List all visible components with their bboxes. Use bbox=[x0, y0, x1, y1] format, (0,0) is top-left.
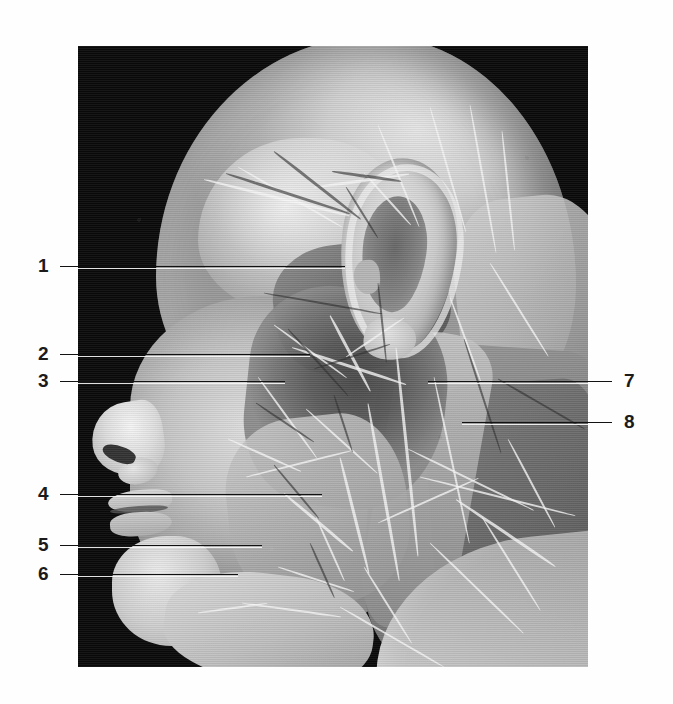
leader-line-7 bbox=[428, 381, 588, 382]
leader-line-3 bbox=[60, 381, 78, 382]
leader-line-4 bbox=[78, 494, 322, 495]
leader-line-2 bbox=[78, 354, 310, 355]
leader-line-1 bbox=[78, 268, 345, 269]
leader-line-7 bbox=[428, 383, 588, 384]
leader-line-5 bbox=[78, 547, 262, 548]
callout-number-4: 4 bbox=[38, 484, 49, 503]
callout-number-8: 8 bbox=[624, 412, 635, 431]
callout-number-7: 7 bbox=[624, 371, 635, 390]
leader-line-6 bbox=[78, 576, 238, 577]
callout-number-3: 3 bbox=[38, 371, 49, 390]
leader-line-1 bbox=[60, 266, 78, 267]
leader-line-5 bbox=[78, 545, 262, 546]
figure-root: 12345678 bbox=[0, 0, 673, 704]
leader-line-6 bbox=[60, 574, 78, 575]
callout-number-5: 5 bbox=[38, 535, 49, 554]
leader-line-6 bbox=[78, 574, 238, 575]
leader-line-2 bbox=[60, 354, 78, 355]
leader-line-4 bbox=[60, 494, 78, 495]
leader-line-8 bbox=[588, 422, 612, 423]
callout-number-2: 2 bbox=[38, 344, 49, 363]
leader-line-4 bbox=[78, 496, 322, 497]
leader-line-7 bbox=[588, 381, 612, 382]
leader-line-3 bbox=[78, 383, 285, 384]
leader-line-8 bbox=[462, 422, 588, 423]
leader-line-2 bbox=[78, 356, 310, 357]
leader-line-8 bbox=[462, 424, 588, 425]
callout-number-6: 6 bbox=[38, 564, 49, 583]
callout-number-1: 1 bbox=[38, 256, 49, 275]
leader-line-5 bbox=[60, 545, 78, 546]
leader-line-1 bbox=[78, 266, 345, 267]
leader-line-3 bbox=[78, 381, 285, 382]
